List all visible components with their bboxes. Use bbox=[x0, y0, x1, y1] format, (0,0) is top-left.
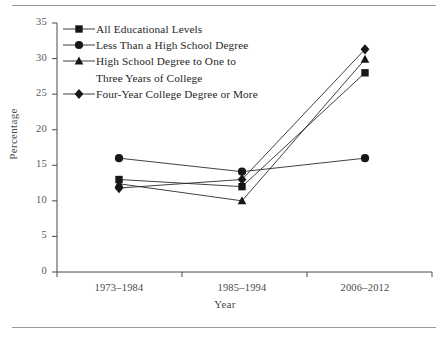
legend-entry-label-continuation: Three Years of College bbox=[62, 70, 292, 86]
circle-data-marker bbox=[75, 41, 83, 49]
legend-entry-label: All Educational Levels bbox=[96, 22, 202, 36]
legend-entry[interactable]: Four-Year College Degree or More bbox=[62, 86, 292, 102]
square-data-marker bbox=[361, 69, 368, 76]
legend-entry[interactable]: Less Than a High School Degree bbox=[62, 37, 292, 53]
x-axis-title: Year bbox=[180, 298, 270, 310]
y-tick-label: 5 bbox=[21, 229, 47, 240]
diamond-data-marker bbox=[75, 89, 84, 99]
legend-triangle-icon bbox=[62, 54, 96, 68]
legend-entry-label: Four-Year College Degree or More bbox=[96, 87, 258, 101]
legend-diamond-icon bbox=[62, 87, 96, 101]
y-axis-title: Percentage bbox=[7, 94, 19, 174]
y-tick-label: 15 bbox=[21, 158, 47, 169]
y-tick-label: 20 bbox=[21, 123, 47, 134]
triangle-data-marker bbox=[361, 55, 370, 63]
legend-entry-label: Less Than a High School Degree bbox=[96, 38, 248, 52]
series-circle bbox=[115, 154, 369, 176]
triangle-data-marker bbox=[75, 57, 84, 65]
circle-data-marker bbox=[115, 154, 123, 162]
legend-square-icon bbox=[62, 22, 96, 36]
legend-entry[interactable]: All Educational Levels bbox=[62, 21, 292, 37]
x-tick-label: 1973–1984 bbox=[74, 282, 164, 293]
circle-data-marker bbox=[361, 154, 369, 162]
chart-legend: All Educational LevelsLess Than a High S… bbox=[62, 21, 292, 102]
square-data-marker bbox=[75, 25, 82, 32]
y-tick-label: 30 bbox=[21, 52, 47, 63]
x-tick-label: 2006–2012 bbox=[320, 282, 410, 293]
legend-circle-icon bbox=[62, 38, 96, 52]
legend-entry-label: High School Degree to One to bbox=[96, 54, 236, 68]
legend-entry[interactable]: High School Degree to One to bbox=[62, 53, 292, 69]
figure: 05101520253035 1973–19841985–19942006–20… bbox=[0, 0, 448, 339]
y-tick-label: 10 bbox=[21, 194, 47, 205]
y-tick-label: 25 bbox=[21, 87, 47, 98]
y-tick-label: 0 bbox=[21, 265, 47, 276]
x-tick-label: 1985–1994 bbox=[197, 282, 287, 293]
y-tick-label: 35 bbox=[21, 16, 47, 27]
